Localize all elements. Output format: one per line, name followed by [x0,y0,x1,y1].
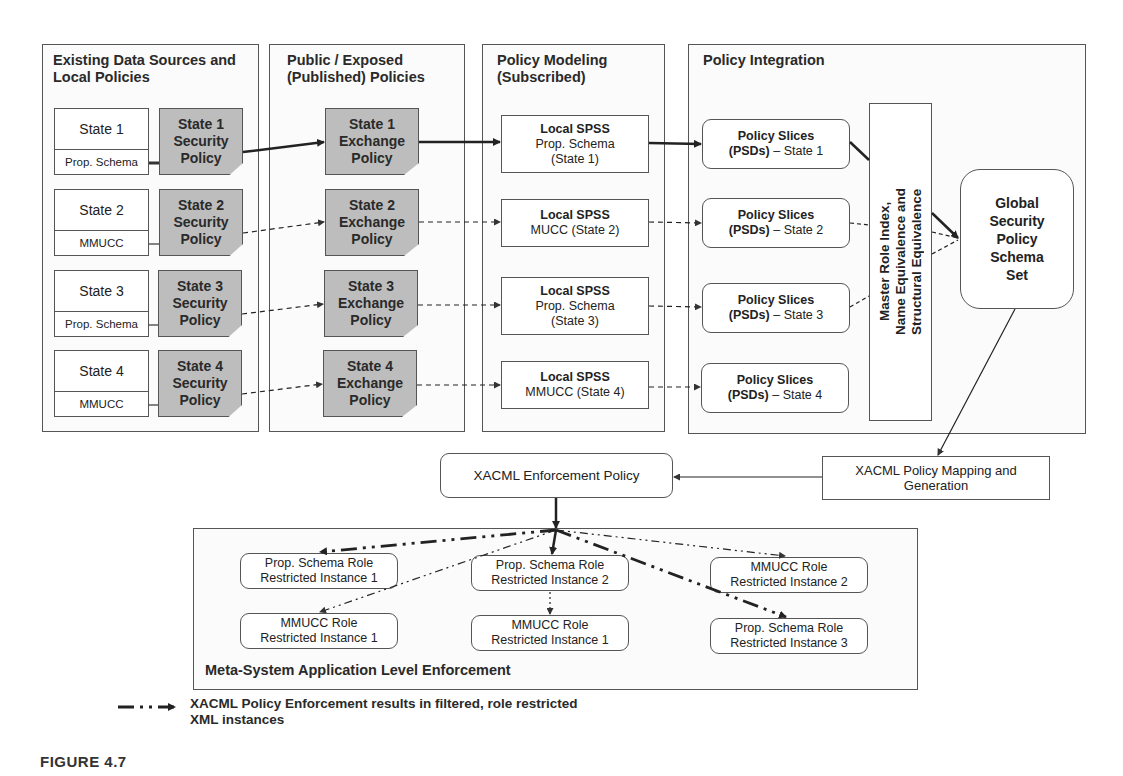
label-line: Generation [904,478,968,493]
doc-line: Security [172,375,227,391]
doc-line: State 1 [178,116,224,132]
restricted-instance-prop-schema-1: Prop. Schema Role Restricted Instance 1 [240,553,398,589]
spss-line: MMUCC (State 4) [525,385,624,400]
doc-line: Policy [351,150,392,166]
panel-title: Meta-System Application Level Enforcemen… [205,662,705,679]
spss-line: Prop. Schema [535,137,614,152]
doc-line: Policy [350,312,391,328]
local-spss-3: Local SPSS Prop. Schema (State 3) [501,277,649,335]
doc-line: Policy [180,150,221,166]
state-schema: Prop. Schema [55,149,148,174]
label-line: XACML Policy Mapping and [855,463,1016,478]
box-label: XACML Enforcement Policy [473,468,639,483]
label-line: Prop. Schema Role [265,556,373,571]
slice-state: – State 3 [770,308,824,322]
doc-line: State 4 [177,358,223,374]
policy-slices-1: Policy Slices (PSDs) – State 1 [702,119,850,169]
doc-line: Security [173,133,228,149]
label-line: Master Role Index, [877,188,893,335]
local-spss-2: Local SPSS MUCC (State 2) [501,199,649,247]
label-line: Schema [990,248,1044,266]
doc-line: Security [173,214,228,230]
spss-title: Local SPSS [540,122,609,137]
legend-line: XML instances [190,712,710,728]
panel-title: Public / Exposed (Published) Policies [287,52,457,86]
state-schema: Prop. Schema [55,311,148,336]
spss-title: Local SPSS [540,370,609,385]
doc-line: State 2 [349,197,395,213]
restricted-instance-mmucc-2: MMUCC Role Restricted Instance 2 [710,557,868,593]
label-line: Policy [996,230,1037,248]
label-line: Name Equivalence and [893,188,909,335]
xacml-policy-mapping-generation: XACML Policy Mapping and Generation [822,456,1050,500]
global-security-policy-schema-set: Global Security Policy Schema Set [960,169,1074,309]
label-line: Security [989,212,1044,230]
doc-line: Policy [180,231,221,247]
xacml-enforcement-policy: XACML Enforcement Policy [440,453,673,498]
figure-caption: FIGURE 4.7 [40,753,127,770]
spss-line: (State 3) [551,314,599,329]
doc-line: Exchange [337,375,403,391]
local-spss-1: Local SPSS Prop. Schema (State 1) [501,115,649,173]
slice-psds: (PSDs) [729,308,770,322]
state-name: State 2 [55,190,148,231]
restricted-instance-prop-schema-3: Prop. Schema Role Restricted Instance 3 [710,618,868,654]
policy-slices-3: Policy Slices (PSDs) – State 3 [702,283,850,333]
spss-line: Prop. Schema [535,299,614,314]
restricted-instance-mmucc-1b: MMUCC Role Restricted Instance 1 [471,615,629,651]
exchange-policy-doc-3: State 3ExchangePolicy [324,270,418,337]
security-policy-doc-3: State 3SecurityPolicy [158,270,242,337]
security-policy-doc-1: State 1SecurityPolicy [159,108,243,175]
label-line: Restricted Instance 1 [260,571,377,586]
state-name: State 1 [55,109,148,150]
slice-psds: (PSDs) [729,144,770,158]
label-line: Structural Equivalence [909,188,925,335]
state-source-4: State 4 MMUCC [54,350,149,417]
slice-title: Policy Slices [738,293,814,308]
slice-title: Policy Slices [737,373,813,388]
label-line: MMUCC Role [511,618,588,633]
doc-line: State 4 [347,358,393,374]
slice-psds: (PSDs) [728,388,769,402]
state-name: State 3 [55,271,148,312]
local-spss-4: Local SPSS MMUCC (State 4) [501,361,649,409]
exchange-policy-doc-1: State 1ExchangePolicy [325,108,419,175]
slice-state: – State 2 [770,223,824,237]
doc-line: Security [172,295,227,311]
label-line: MMUCC Role [280,616,357,631]
spss-title: Local SPSS [540,208,609,223]
slice-title: Policy Slices [738,129,814,144]
doc-line: Policy [179,392,220,408]
state-schema: MMUCC [55,391,148,416]
label-line: Restricted Instance 2 [491,573,608,588]
doc-line: Policy [349,392,390,408]
doc-line: State 3 [348,278,394,294]
label-line: Prop. Schema Role [735,621,843,636]
policy-slices-4: Policy Slices (PSDs) – State 4 [701,363,849,413]
slice-state: – State 1 [770,144,824,158]
slice-psds: (PSDs) [729,223,770,237]
label-line: Restricted Instance 2 [730,575,847,590]
doc-line: State 2 [178,197,224,213]
restricted-instance-prop-schema-2: Prop. Schema Role Restricted Instance 2 [471,555,629,591]
security-policy-doc-4: State 4SecurityPolicy [158,350,242,417]
restricted-instance-mmucc-1a: MMUCC Role Restricted Instance 1 [240,613,398,649]
exchange-policy-doc-4: State 4ExchangePolicy [323,350,417,417]
slice-state: – State 4 [769,388,823,402]
slice-title: Policy Slices [738,208,814,223]
doc-line: Exchange [338,295,404,311]
security-policy-doc-2: State 2SecurityPolicy [159,189,243,256]
label-line: MMUCC Role [750,560,827,575]
state-source-3: State 3 Prop. Schema [54,270,149,337]
doc-line: Exchange [339,214,405,230]
doc-line: Policy [351,231,392,247]
legend-text: XACML Policy Enforcement results in filt… [190,696,710,728]
doc-line: Policy [179,312,220,328]
policy-slices-2: Policy Slices (PSDs) – State 2 [702,198,850,248]
label-line: Restricted Instance 1 [491,633,608,648]
label-line: Global [995,194,1039,212]
legend-line: XACML Policy Enforcement results in filt… [190,696,710,712]
state-name: State 4 [55,351,148,392]
doc-line: State 3 [177,278,223,294]
spss-line: MUCC (State 2) [531,223,620,238]
